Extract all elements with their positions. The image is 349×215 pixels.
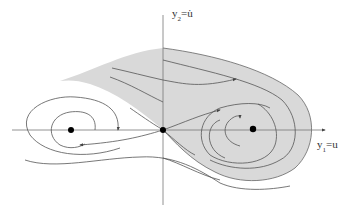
left-outer-loop [26, 97, 120, 155]
phase-portrait-diagram [0, 0, 349, 215]
vertical-label-rest: =u̇ [181, 7, 193, 19]
saddle-point [160, 127, 166, 133]
horizontal-axis-label: y1=u [317, 139, 338, 150]
left-center-point [68, 127, 74, 133]
horizontal-label-main: y [317, 138, 323, 150]
horizontal-label-sub: 1 [323, 146, 327, 154]
vertical-label-main: y [172, 7, 178, 19]
unstable-manifold-left [80, 130, 163, 145]
horizontal-label-rest: =u [326, 138, 338, 150]
vertical-axis-label: y2=u̇ [172, 8, 193, 19]
right-center-point [250, 126, 256, 132]
vertical-label-sub: 2 [178, 15, 182, 23]
